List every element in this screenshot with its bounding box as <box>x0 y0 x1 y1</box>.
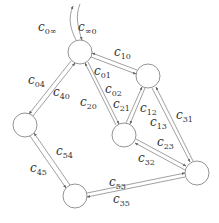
label-cinf0: c∞0 <box>78 20 97 36</box>
label-c13: c13 <box>150 115 167 131</box>
graph-diagram: c0∞ c∞0 c10 c01 c02 c04 c40 c20 c21 c12 … <box>0 0 219 223</box>
label-c20: c20 <box>80 95 97 111</box>
node-0 <box>68 40 92 64</box>
label-c32: c32 <box>138 151 155 167</box>
label-c23: c23 <box>157 135 174 151</box>
label-c53: c53 <box>109 175 126 191</box>
edge-0-inf <box>70 6 76 40</box>
label-c31: c31 <box>176 108 193 124</box>
label-c45: c45 <box>30 161 47 177</box>
node-2 <box>112 123 136 147</box>
label-c21: c21 <box>113 97 130 113</box>
label-c40: c40 <box>53 85 70 101</box>
label-c0inf: c0∞ <box>38 20 57 36</box>
node-1 <box>136 64 160 88</box>
node-3 <box>185 161 209 185</box>
node-5 <box>63 184 87 208</box>
node-4 <box>13 113 37 137</box>
edge-5-3 <box>87 173 185 193</box>
label-c10: c10 <box>114 45 131 61</box>
label-c54: c54 <box>56 144 73 160</box>
label-c35: c35 <box>113 192 130 208</box>
edge-3-5 <box>87 177 185 197</box>
label-c02: c02 <box>105 82 122 98</box>
label-c01: c01 <box>94 64 111 80</box>
label-c04: c04 <box>28 73 45 89</box>
